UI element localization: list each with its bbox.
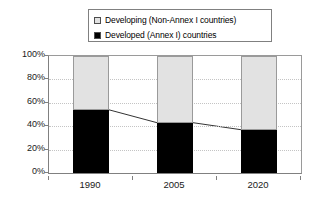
bar-segment-developed bbox=[73, 110, 109, 173]
bar-segment-developed bbox=[157, 123, 193, 173]
bar-2005 bbox=[157, 56, 193, 173]
bar-segment-developing bbox=[157, 56, 193, 123]
stacked-bar-chart: Developing (Non-Annex I countries) Devel… bbox=[0, 0, 319, 201]
bar-1990 bbox=[73, 56, 109, 173]
x-axis-tick-mark bbox=[48, 176, 49, 180]
x-axis: 199020052020 bbox=[48, 176, 302, 196]
bar-segment-developing bbox=[73, 56, 109, 110]
x-axis-tick-mark bbox=[300, 176, 301, 180]
x-axis-tick-label: 2020 bbox=[223, 180, 293, 190]
bar-segment-developed bbox=[241, 130, 277, 173]
x-axis-tick-label: 2005 bbox=[139, 180, 209, 190]
bar-segment-developing bbox=[241, 56, 277, 130]
plot-wrapper bbox=[0, 0, 319, 201]
x-axis-tick-mark bbox=[132, 176, 133, 180]
plot-area bbox=[48, 55, 302, 174]
bar-2020 bbox=[241, 56, 277, 173]
x-axis-tick-label: 1990 bbox=[55, 180, 125, 190]
x-axis-tick-mark bbox=[216, 176, 217, 180]
